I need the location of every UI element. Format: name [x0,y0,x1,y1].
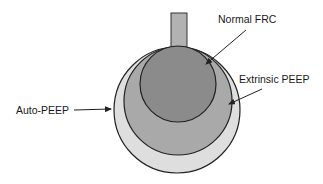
normal-frc-volume-circle [140,46,216,122]
airway-stem [171,13,187,47]
auto-peep-label: Auto-PEEP [16,104,69,116]
lung-volume-diagram [0,0,323,184]
normal-frc-label: Normal FRC [218,13,276,25]
auto-peep-arrow [74,109,111,110]
extrinsic-peep-label: Extrinsic PEEP [239,73,310,85]
normal-frc-arrow [206,30,246,64]
